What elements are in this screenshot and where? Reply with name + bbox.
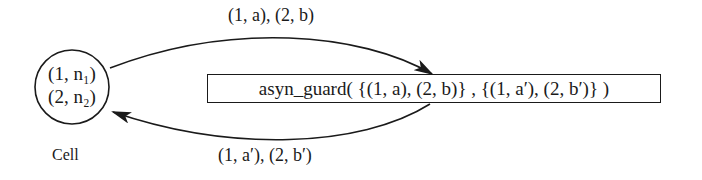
top-edge-label: (1, a), (2, b) xyxy=(228,6,314,24)
edge-cell-to-guard xyxy=(110,38,432,74)
bottom-edge-label: (1, a′), (2, b′) xyxy=(218,146,312,164)
asyn-guard-box: asyn_guard( {(1, a), (2, b)} , {(1, a′),… xyxy=(207,74,661,103)
cell-node-line-2: (2, n₂) xyxy=(34,86,110,108)
cell-node-line-1: (1, n₁) xyxy=(34,63,110,85)
cell-caption: Cell xyxy=(52,146,79,164)
edge-guard-to-cell xyxy=(113,104,430,140)
